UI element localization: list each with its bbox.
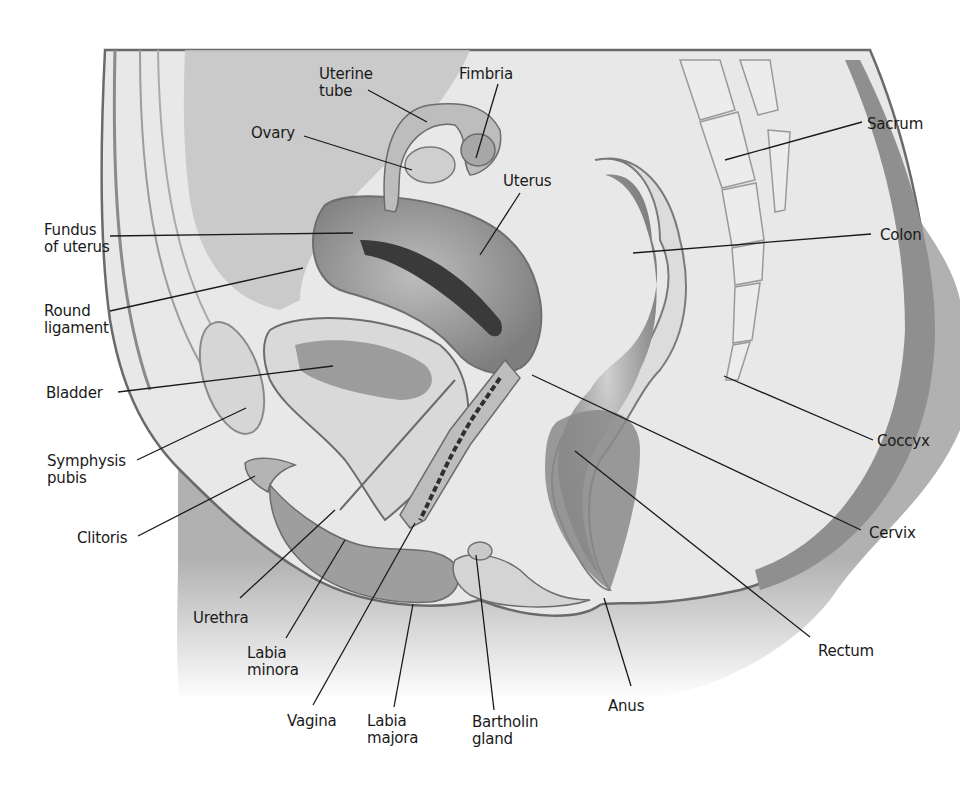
label-uterus: Uterus xyxy=(503,173,551,190)
label-sacrum: Sacrum xyxy=(867,116,923,133)
label-fimbria: Fimbria xyxy=(459,66,513,83)
label-clitoris: Clitoris xyxy=(77,530,127,547)
label-uterine-tube: Uterine tube xyxy=(319,66,373,100)
label-round-ligament: Round ligament xyxy=(44,303,109,337)
label-labia-minora: Labia minora xyxy=(247,645,299,679)
label-ovary: Ovary xyxy=(251,125,295,142)
label-fundus-of-uterus: Fundus of uterus xyxy=(44,222,110,256)
label-vagina: Vagina xyxy=(287,713,336,730)
label-bladder: Bladder xyxy=(46,385,103,402)
label-coccyx: Coccyx xyxy=(877,433,930,450)
label-anus: Anus xyxy=(608,698,644,715)
label-urethra: Urethra xyxy=(193,610,248,627)
pelvis-illustration xyxy=(0,0,977,794)
pelvis-diagram: Uterine tube Fimbria Ovary Uterus Sacrum… xyxy=(0,0,977,794)
label-bartholin-gland: Bartholin gland xyxy=(472,714,538,748)
label-labia-majora: Labia majora xyxy=(367,713,418,747)
label-cervix: Cervix xyxy=(869,525,916,542)
label-symphysis-pubis: Symphysis pubis xyxy=(47,453,126,487)
label-colon: Colon xyxy=(880,227,922,244)
label-rectum: Rectum xyxy=(818,643,874,660)
